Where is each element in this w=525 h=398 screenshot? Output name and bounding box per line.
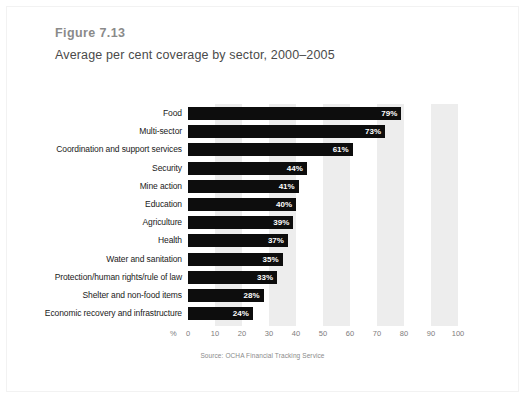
bar-row: Mine action41% [0,180,525,193]
x-tick-label: 30 [265,328,273,340]
bar-row: Health37% [0,234,525,247]
bar-value-label: 61% [333,143,349,156]
bar-value-label: 37% [268,234,284,247]
category-label: Economic recovery and infrastructure [0,307,182,320]
category-label: Food [0,107,182,120]
bar-row: Economic recovery and infrastructure24% [0,307,525,320]
bar: 41% [188,180,299,193]
category-label: Agriculture [0,216,182,229]
category-label: Health [0,234,182,247]
x-tick-label: 70 [373,328,381,340]
bar-row: Shelter and non-food items28% [0,289,525,302]
bar-row: Multi-sector73% [0,125,525,138]
bar-value-label: 73% [365,125,381,138]
bar-row: Security44% [0,162,525,175]
bar: 40% [188,198,296,211]
category-label: Education [0,198,182,211]
category-label: Shelter and non-food items [0,289,182,302]
x-tick-label: 40 [292,328,300,340]
bar: 35% [188,253,283,266]
x-tick-label: 60 [346,328,354,340]
bar-value-label: 79% [381,107,397,120]
bar: 33% [188,271,277,284]
bar-value-label: 39% [273,216,289,229]
bar-row: Education40% [0,198,525,211]
figure-title: Average per cent coverage by sector, 200… [55,47,485,63]
category-label: Multi-sector [0,125,182,138]
bar: 73% [188,125,385,138]
bar-value-label: 28% [244,289,260,302]
axis-unit-label: % [170,328,177,340]
bar-value-label: 33% [257,271,273,284]
x-tick-label: 10 [211,328,219,340]
bar-value-label: 40% [276,198,292,211]
figure-container: Figure 7.13 Average per cent coverage by… [0,0,525,398]
figure-header: Figure 7.13 Average per cent coverage by… [55,26,485,63]
bar: 44% [188,162,307,175]
bar-row: Agriculture39% [0,216,525,229]
figure-number: Figure 7.13 [55,26,485,41]
bar: 37% [188,234,288,247]
bar: 24% [188,307,253,320]
category-label: Coordination and support services [0,143,182,156]
bar: 39% [188,216,293,229]
bar-row: Water and sanitation35% [0,253,525,266]
bar: 28% [188,289,264,302]
category-label: Security [0,162,182,175]
chart-area: Food79%Multi-sector73%Coordination and s… [0,104,525,374]
x-tick-label: 0 [186,328,190,340]
bar-row: Coordination and support services61% [0,143,525,156]
bar-row: Food79% [0,107,525,120]
x-axis: % 0102030405060708090100 [0,328,525,346]
x-tick-label: 90 [427,328,435,340]
bar-value-label: 35% [262,253,278,266]
source-note: Source: OCHA Financial Tracking Service [0,352,525,359]
bar-value-label: 41% [279,180,295,193]
category-label: Protection/human rights/rule of law [0,271,182,284]
x-tick-label: 80 [400,328,408,340]
bar-value-label: 44% [287,162,303,175]
bar: 61% [188,143,353,156]
x-tick-label: 100 [452,328,465,340]
bar: 79% [188,107,401,120]
bar-rows: Food79%Multi-sector73%Coordination and s… [0,104,525,326]
x-tick-label: 50 [319,328,327,340]
x-tick-label: 20 [238,328,246,340]
category-label: Water and sanitation [0,253,182,266]
bar-value-label: 24% [233,307,249,320]
category-label: Mine action [0,180,182,193]
bar-row: Protection/human rights/rule of law33% [0,271,525,284]
